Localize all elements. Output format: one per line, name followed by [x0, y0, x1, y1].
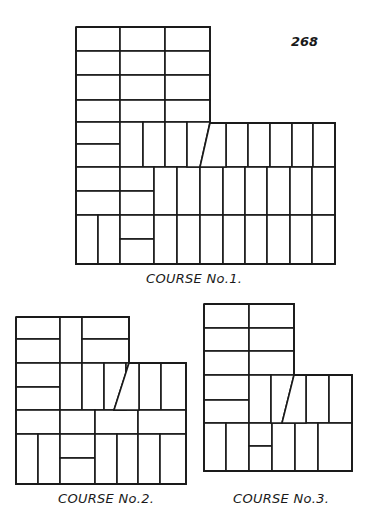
brick: [165, 75, 210, 100]
brick: [204, 423, 226, 471]
brick: [95, 434, 117, 484]
brick: [98, 215, 120, 264]
brick: [138, 410, 186, 434]
brick: [120, 191, 154, 215]
brick: [204, 375, 249, 400]
brick: [120, 239, 154, 264]
brick: [161, 363, 186, 410]
brick: [204, 351, 249, 375]
brick: [165, 27, 210, 51]
brick: [143, 122, 165, 167]
figure-caption: COURSE No.1.: [146, 271, 242, 286]
brick: [249, 423, 272, 446]
brick: [249, 375, 271, 423]
brick: [76, 167, 120, 191]
brick: [248, 123, 270, 167]
brick: [312, 215, 335, 264]
brick: [120, 122, 143, 167]
brick: [95, 410, 138, 434]
brick: [200, 167, 223, 215]
brick: [226, 423, 249, 471]
brick: [82, 339, 129, 363]
brick: [249, 351, 294, 375]
figure-caption: COURSE No.3.: [233, 491, 329, 506]
brick: [76, 191, 120, 215]
brick: [292, 123, 313, 167]
brick: [76, 215, 98, 264]
brick: [290, 167, 312, 215]
brick: [139, 363, 161, 410]
brick: [249, 304, 294, 328]
brick: [120, 51, 165, 75]
brick: [120, 167, 154, 191]
brick: [245, 167, 267, 215]
brick: [223, 215, 245, 264]
brick: [16, 434, 38, 484]
brick: [329, 375, 352, 423]
brick: [16, 363, 60, 387]
brick: [165, 100, 210, 122]
brick-bond-diagram: 268 COURSE No.1. COURSE No.2. COURSE No.…: [0, 0, 373, 518]
brick: [60, 317, 82, 363]
brick: [82, 363, 104, 410]
brick: [295, 423, 318, 471]
brick: [38, 434, 60, 484]
brick: [312, 167, 335, 215]
brick: [117, 434, 138, 484]
brick: [154, 215, 177, 264]
brick: [120, 27, 165, 51]
brick: [60, 434, 95, 458]
brick: [120, 215, 154, 239]
brick: [76, 75, 120, 100]
brick: [223, 167, 245, 215]
brick: [267, 215, 290, 264]
brick: [204, 304, 249, 328]
brick: [249, 328, 294, 351]
brick: [270, 123, 292, 167]
figure-caption: COURSE No.2.: [58, 491, 154, 506]
brick: [76, 51, 120, 75]
brick: [245, 215, 267, 264]
brick: [60, 363, 82, 410]
brick: [16, 339, 60, 363]
brick: [120, 100, 165, 122]
brick: [306, 375, 329, 423]
brick: [76, 100, 120, 122]
brick: [290, 215, 312, 264]
brick: [272, 423, 295, 471]
brick: [76, 122, 120, 144]
brick: [60, 410, 95, 434]
brick: [165, 51, 210, 75]
figure-course-1: COURSE No.1.: [76, 27, 335, 286]
figure-course-2: COURSE No.2.: [16, 317, 186, 506]
brick: [16, 317, 60, 339]
brick: [177, 215, 200, 264]
brick: [76, 27, 120, 51]
brick: [226, 123, 248, 167]
brick: [82, 317, 129, 339]
brick: [318, 423, 352, 471]
page-number: 268: [291, 34, 318, 49]
brick: [154, 167, 177, 215]
brick: [16, 410, 60, 434]
brick: [16, 387, 60, 410]
brick: [60, 458, 95, 484]
brick: [200, 215, 223, 264]
brick: [204, 400, 249, 423]
brick: [160, 434, 186, 484]
brick: [313, 123, 335, 167]
brick: [120, 75, 165, 100]
brick: [138, 434, 160, 484]
brick: [249, 446, 272, 471]
brick: [204, 328, 249, 351]
brick: [267, 167, 290, 215]
brick: [177, 167, 200, 215]
brick: [76, 144, 120, 167]
brick: [165, 122, 187, 167]
figure-course-3: COURSE No.3.: [204, 304, 352, 506]
